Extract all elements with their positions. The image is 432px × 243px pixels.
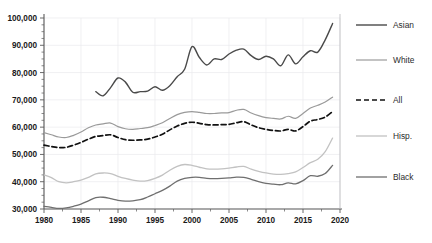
x-axis-tick-label: 2005 xyxy=(220,216,239,225)
y-axis-tick-label: 90,000 xyxy=(12,41,37,50)
y-axis-tick-label: 30,000 xyxy=(12,205,37,214)
legend-label-white: White xyxy=(393,55,415,65)
x-axis-tick-label: 2020 xyxy=(331,216,350,225)
y-axis-tick-label: 80,000 xyxy=(12,69,37,78)
chart-container: 30,00040,00050,00060,00070,00080,00090,0… xyxy=(0,0,432,243)
x-axis-tick-label: 1995 xyxy=(146,216,165,225)
series-layer xyxy=(44,23,333,208)
legend-label-asian: Asian xyxy=(393,20,414,30)
legend: AsianWhiteAllHisp.Black xyxy=(356,20,415,182)
line-chart: 30,00040,00050,00060,00070,00080,00090,0… xyxy=(0,0,432,243)
x-axis-tick-label: 1980 xyxy=(35,216,54,225)
x-axis-tick-label: 2000 xyxy=(183,216,202,225)
ytick-labels: 30,00040,00050,00060,00070,00080,00090,0… xyxy=(7,14,37,214)
y-axis-tick-label: 60,000 xyxy=(12,123,37,132)
series-line-hisp xyxy=(44,138,333,183)
x-axis-tick-label: 1990 xyxy=(109,216,128,225)
y-axis-tick-label: 40,000 xyxy=(12,178,37,187)
series-line-white xyxy=(44,97,333,137)
y-axis-tick-label: 50,000 xyxy=(12,150,37,159)
y-axis-tick-label: 100,000 xyxy=(7,14,37,23)
series-line-asian xyxy=(96,23,333,95)
legend-label-black: Black xyxy=(393,172,414,182)
legend-label-hisp: Hisp. xyxy=(393,131,412,141)
x-axis-tick-label: 1985 xyxy=(72,216,91,225)
x-axis-tick-label: 2015 xyxy=(294,216,313,225)
y-axis-tick-label: 70,000 xyxy=(12,96,37,105)
series-line-black xyxy=(44,165,333,208)
legend-label-all: All xyxy=(393,95,402,105)
xtick-labels: 198019851990199520002005201020152020 xyxy=(35,216,350,225)
x-axis-tick-label: 2010 xyxy=(257,216,276,225)
